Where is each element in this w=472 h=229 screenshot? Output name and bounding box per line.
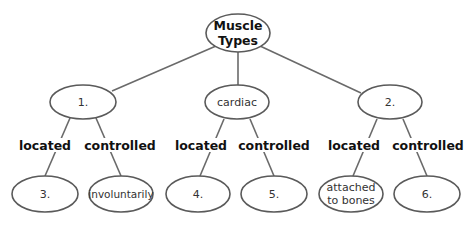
node-5: 5.: [241, 176, 307, 212]
svg-text:6.: 6.: [422, 188, 433, 201]
node-6: 6.: [394, 176, 460, 212]
link-label-1-controlled: controlled: [84, 138, 156, 153]
node-attached-to-bones: attached to bones: [319, 176, 383, 212]
node-involuntarily: involuntarily: [88, 176, 153, 212]
node-1: 1.: [50, 85, 116, 119]
svg-text:1.: 1.: [78, 96, 89, 109]
node-2: 2.: [358, 85, 422, 119]
node-cardiac: cardiac: [205, 85, 269, 119]
node-4: 4.: [166, 176, 230, 212]
concept-map: located controlled located controlled lo…: [0, 0, 472, 229]
svg-text:controlled: controlled: [238, 138, 310, 153]
svg-text:3.: 3.: [40, 188, 51, 201]
svg-text:5.: 5.: [269, 188, 280, 201]
svg-text:Muscle: Muscle: [214, 18, 263, 33]
svg-text:Types: Types: [218, 33, 258, 48]
link-label-2-controlled: controlled: [392, 138, 464, 153]
link-label-cardiac-controlled: controlled: [238, 138, 310, 153]
svg-text:located: located: [19, 138, 71, 153]
edge-root-to-1: [112, 46, 216, 91]
svg-text:controlled: controlled: [84, 138, 156, 153]
svg-text:involuntarily: involuntarily: [88, 188, 153, 200]
svg-text:attached: attached: [327, 181, 376, 194]
svg-text:4.: 4.: [193, 188, 204, 201]
edge-root-to-2: [260, 46, 361, 93]
svg-text:to bones: to bones: [327, 194, 375, 207]
link-label-cardiac-located: located: [175, 138, 227, 153]
svg-text:controlled: controlled: [392, 138, 464, 153]
svg-text:2.: 2.: [385, 96, 396, 109]
root-node-muscle-types: Muscle Types: [206, 14, 270, 52]
svg-text:located: located: [328, 138, 380, 153]
svg-text:cardiac: cardiac: [217, 96, 257, 109]
link-label-1-located: located: [19, 138, 71, 153]
svg-text:located: located: [175, 138, 227, 153]
node-3: 3.: [12, 176, 78, 212]
link-label-2-located: located: [328, 138, 380, 153]
